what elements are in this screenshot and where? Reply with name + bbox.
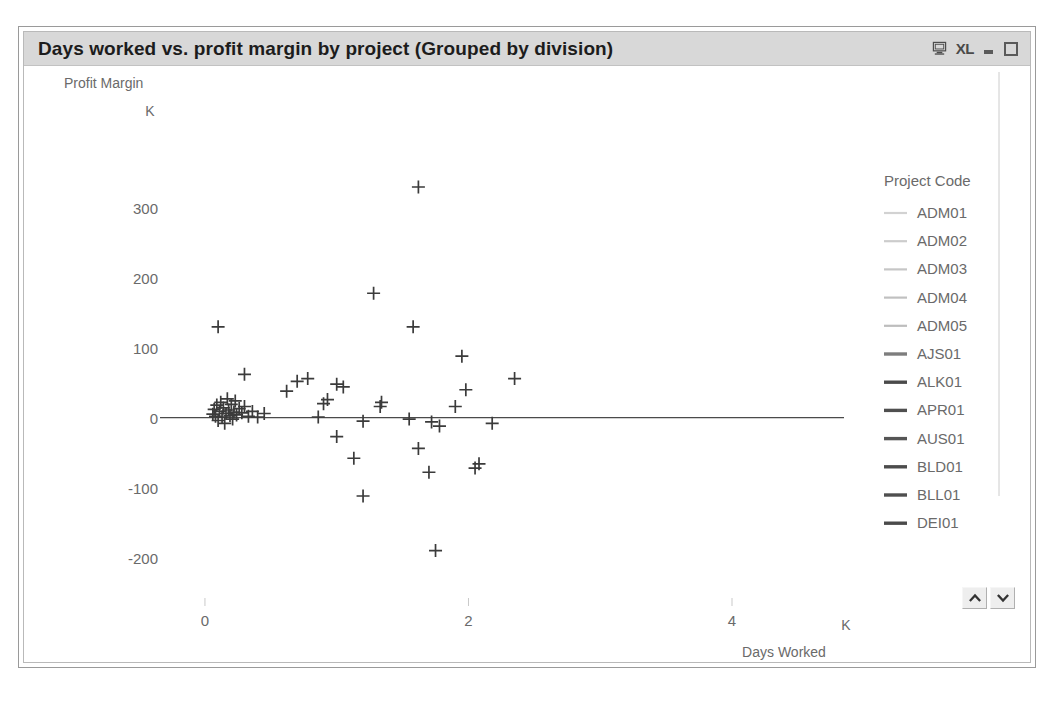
legend-label: AUS01	[917, 430, 965, 447]
data-point-marker[interactable]	[301, 372, 314, 385]
data-point-marker[interactable]	[412, 180, 425, 193]
legend-item-adm02[interactable]: ADM02	[884, 232, 967, 249]
data-points[interactable]	[206, 180, 521, 557]
legend-label: BLL01	[917, 486, 960, 503]
y-tick-label: 100	[133, 340, 158, 357]
data-point-marker[interactable]	[291, 375, 304, 388]
legend-item-adm03[interactable]: ADM03	[884, 260, 967, 277]
legend-label: ADM01	[917, 204, 967, 221]
data-point-marker[interactable]	[449, 400, 462, 413]
x-axis-title: Days Worked	[742, 644, 826, 660]
legend-item-dei01[interactable]: DEI01	[884, 514, 959, 531]
data-point-marker[interactable]	[357, 415, 370, 428]
data-point-marker[interactable]	[330, 430, 343, 443]
legend-scroll-up-button[interactable]	[962, 587, 987, 609]
chart-canvas: Profit MarginKDays WorkedK3002001000-100…	[24, 66, 1030, 662]
legend-item-bld01[interactable]: BLD01	[884, 458, 963, 475]
chevron-up-icon	[968, 591, 982, 605]
data-point-marker[interactable]	[459, 383, 472, 396]
x-tick-label: 2	[464, 612, 472, 629]
data-point-marker[interactable]	[407, 320, 420, 333]
window-title: Days worked vs. profit margin by project…	[38, 38, 613, 60]
excel-export-button[interactable]: XL	[956, 41, 974, 56]
screenshot-root: Days worked vs. profit margin by project…	[0, 0, 1060, 706]
maximize-button[interactable]	[1004, 42, 1018, 56]
titlebar-controls: XL	[932, 41, 1018, 56]
chevron-down-icon	[996, 591, 1010, 605]
y-axis-title: Profit Margin	[64, 75, 143, 91]
legend-label: DEI01	[917, 514, 959, 531]
scatter-plot[interactable]: Profit MarginKDays WorkedK3002001000-100…	[24, 66, 1031, 663]
legend-label: BLD01	[917, 458, 963, 475]
window-titlebar: Days worked vs. profit margin by project…	[24, 32, 1030, 66]
data-point-marker[interactable]	[403, 413, 416, 426]
data-point-marker[interactable]	[357, 490, 370, 503]
legend-item-bll01[interactable]: BLL01	[884, 486, 960, 503]
y-tick-label: 200	[133, 270, 158, 287]
legend-item-alk01[interactable]: ALK01	[884, 373, 962, 390]
y-tick-label: -200	[128, 550, 158, 567]
data-point-marker[interactable]	[422, 466, 435, 479]
legend-label: ADM03	[917, 260, 967, 277]
legend-item-adm01[interactable]: ADM01	[884, 204, 967, 221]
data-point-marker[interactable]	[486, 417, 499, 430]
legend-item-adm05[interactable]: ADM05	[884, 317, 967, 334]
legend-label: ADM04	[917, 289, 967, 306]
data-point-marker[interactable]	[330, 378, 343, 391]
chart-window: Days worked vs. profit margin by project…	[18, 26, 1036, 668]
x-axis-unit: K	[841, 617, 851, 633]
data-point-marker[interactable]	[412, 442, 425, 455]
plot-host: Profit MarginKDays WorkedK3002001000-100…	[24, 66, 1030, 662]
data-point-marker[interactable]	[347, 452, 360, 465]
data-point-marker[interactable]	[238, 368, 251, 381]
data-point-marker[interactable]	[212, 320, 225, 333]
y-tick-label: 300	[133, 200, 158, 217]
legend-label: AJS01	[917, 345, 961, 362]
legend-item-apr01[interactable]: APR01	[884, 401, 965, 418]
data-point-marker[interactable]	[508, 372, 521, 385]
legend-label: ADM02	[917, 232, 967, 249]
legend-item-ajs01[interactable]: AJS01	[884, 345, 961, 362]
legend-scroll-buttons	[962, 587, 1015, 609]
y-tick-label: 0	[150, 410, 158, 427]
data-point-marker[interactable]	[337, 380, 350, 393]
legend-title: Project Code	[884, 172, 971, 189]
data-point-marker[interactable]	[455, 350, 468, 363]
legend-item-adm04[interactable]: ADM04	[884, 289, 967, 306]
data-point-marker[interactable]	[312, 411, 325, 424]
y-tick-label: -100	[128, 480, 158, 497]
legend-label: ADM05	[917, 317, 967, 334]
x-tick-label: 0	[201, 612, 209, 629]
data-point-marker[interactable]	[367, 287, 380, 300]
x-tick-label: 4	[728, 612, 736, 629]
legend-label: ALK01	[917, 373, 962, 390]
data-point-marker[interactable]	[429, 544, 442, 557]
legend-label: APR01	[917, 401, 965, 418]
data-point-marker[interactable]	[280, 385, 293, 398]
minimize-button[interactable]	[983, 43, 995, 55]
y-axis-unit: K	[145, 103, 155, 119]
legend-item-aus01[interactable]: AUS01	[884, 430, 965, 447]
legend-scroll-down-button[interactable]	[990, 587, 1015, 609]
chart-window-inner: Days worked vs. profit margin by project…	[23, 31, 1031, 663]
monitor-icon[interactable]	[932, 41, 947, 56]
